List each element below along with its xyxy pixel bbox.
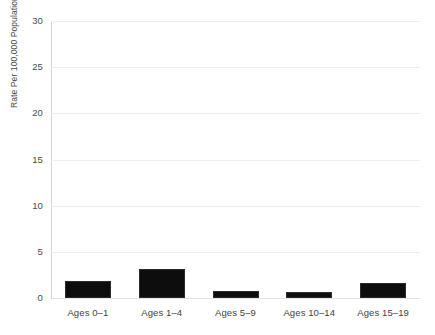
y-tick-label: 15 [15,155,43,165]
bar-slot [65,21,111,298]
y-tick-label: 20 [15,108,43,118]
bar-chart: Rate Per 100,000 Population 302520151050… [0,0,435,335]
gridline-0 [51,298,420,299]
y-tick-label: 0 [15,293,43,303]
bar-slot [360,21,406,298]
bar-slot [139,21,185,298]
y-tick-label: 10 [15,201,43,211]
x-tick-label: Ages 1–4 [125,307,199,319]
bar[interactable] [65,281,111,298]
y-tick-label: 5 [15,247,43,257]
bar-slot [213,21,259,298]
x-tick-label: Ages 10–14 [272,307,346,319]
x-tick-label: Ages 15–19 [346,307,420,319]
x-tick-label: Ages 0–1 [51,307,125,319]
bar[interactable] [286,292,332,298]
bar[interactable] [139,269,185,298]
bar[interactable] [360,283,406,298]
bar-slot [286,21,332,298]
plot-area [51,21,420,298]
chart-title-cropped [0,0,435,3]
y-tick-label: 30 [15,16,43,26]
x-tick-label: Ages 5–9 [199,307,273,319]
y-tick-label: 25 [15,62,43,72]
bar[interactable] [213,291,259,298]
